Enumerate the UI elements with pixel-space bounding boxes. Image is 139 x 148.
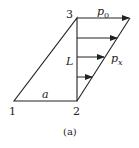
p0-symbol: p [97, 5, 104, 18]
label-px: px [111, 53, 123, 67]
figure-caption: (a) [63, 127, 77, 137]
px-subscript: x [118, 58, 123, 67]
label-a: a [42, 89, 49, 100]
label-L: L [66, 56, 73, 67]
node-label-3: 3 [66, 9, 73, 20]
px-symbol: p [111, 52, 118, 65]
label-p0: p0 [97, 6, 109, 20]
node-label-1: 1 [9, 106, 16, 117]
p0-subscript: 0 [104, 11, 109, 20]
node-label-2: 2 [73, 106, 80, 117]
